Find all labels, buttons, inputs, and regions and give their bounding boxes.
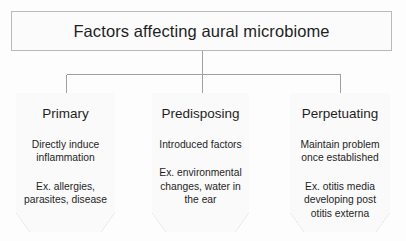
node-predisposing: Predisposing Introduced factors Ex. envi… <box>152 93 249 232</box>
node-primary-example: Ex. allergies, parasites, disease <box>21 180 110 207</box>
node-predisposing-example: Ex. environmental changes, water in the … <box>157 166 244 207</box>
node-primary-heading: Primary <box>20 106 111 122</box>
node-primary: Primary Directly induce inflammation Ex.… <box>16 93 115 232</box>
root-node: Factors affecting aural microbiome <box>11 11 392 51</box>
diagram-canvas: Factors affecting aural microbiome Prima… <box>0 0 406 241</box>
node-perpetuating: Perpetuating Maintain problem once estab… <box>290 93 390 232</box>
page-title: Factors affecting aural microbiome <box>73 22 329 40</box>
node-predisposing-description: Introduced factors <box>158 138 243 152</box>
node-perpetuating-description: Maintain problem once established <box>296 138 384 165</box>
node-primary-description: Directly induce inflammation <box>22 138 109 165</box>
node-perpetuating-example: Ex. otitis media developing post otitis … <box>295 180 385 221</box>
node-predisposing-heading: Predisposing <box>156 106 245 122</box>
node-perpetuating-heading: Perpetuating <box>294 106 386 122</box>
